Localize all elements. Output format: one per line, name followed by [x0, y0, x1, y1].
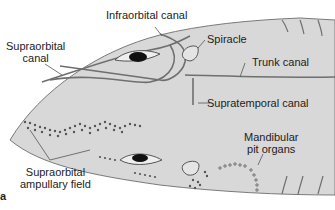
- label-spiracle: Spiracle: [207, 33, 247, 45]
- pupil-bottom: [132, 154, 148, 162]
- pupil-top: [129, 52, 147, 62]
- label-mandibular-pit-organs: Mandibular pit organs: [244, 131, 298, 155]
- label-supraorbital-canal: Supraorbital canal: [6, 40, 65, 64]
- label-supraorbital-ampullary-field: Supraorbital ampullary field: [20, 166, 91, 190]
- panel-letter: a: [0, 190, 6, 202]
- label-trunk-canal: Trunk canal: [252, 56, 309, 68]
- label-supratemporal-canal: Supratemporal canal: [207, 97, 309, 109]
- label-infraorbital-canal: Infraorbital canal: [106, 9, 187, 21]
